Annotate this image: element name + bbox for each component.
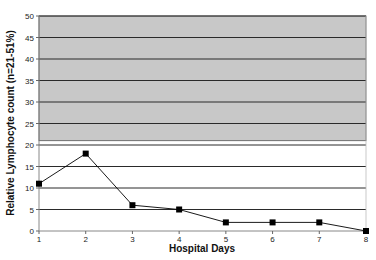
y-axis-ticks: 05101520253035404550 xyxy=(25,12,39,236)
data-series xyxy=(36,151,369,234)
data-point-marker xyxy=(176,207,182,213)
lymphocyte-line-chart: 05101520253035404550 12345678 Hospital D… xyxy=(0,0,376,260)
y-tick-label: 5 xyxy=(30,206,35,215)
y-tick-label: 15 xyxy=(25,163,34,172)
y-tick-label: 40 xyxy=(25,55,34,64)
x-tick-label: 1 xyxy=(37,235,42,244)
data-point-marker xyxy=(270,219,276,225)
data-point-marker xyxy=(363,228,369,234)
x-tick-label: 2 xyxy=(83,235,88,244)
data-point-marker xyxy=(223,219,229,225)
x-tick-label: 8 xyxy=(364,235,369,244)
shaded-normal-range xyxy=(39,16,366,141)
x-tick-label: 3 xyxy=(130,235,135,244)
x-tick-label: 6 xyxy=(270,235,275,244)
y-tick-label: 10 xyxy=(25,184,34,193)
y-tick-label: 30 xyxy=(25,98,34,107)
x-tick-label: 7 xyxy=(317,235,322,244)
y-tick-label: 20 xyxy=(25,141,34,150)
series-line xyxy=(39,154,366,231)
y-tick-label: 35 xyxy=(25,77,34,86)
data-point-marker xyxy=(129,202,135,208)
x-axis-title: Hospital Days xyxy=(169,243,236,254)
y-tick-label: 45 xyxy=(25,34,34,43)
normal-range-band xyxy=(39,16,366,141)
y-tick-label: 50 xyxy=(25,12,34,21)
y-tick-label: 0 xyxy=(30,227,35,236)
data-point-marker xyxy=(316,219,322,225)
y-axis-title: Relative Lymphocyte count (n=21-51%) xyxy=(5,30,16,216)
data-point-marker xyxy=(36,181,42,187)
y-tick-label: 25 xyxy=(25,120,34,129)
data-point-marker xyxy=(83,151,89,157)
